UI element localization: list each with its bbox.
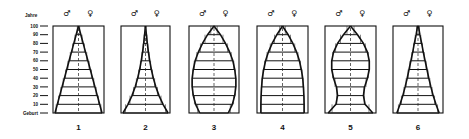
pyramid-panel-1: ♂♀1 [53, 9, 104, 132]
pyramid-panel-2: ♂♀2 [121, 9, 170, 132]
female-symbol: ♀ [291, 9, 297, 18]
panel-number: 6 [416, 123, 421, 132]
population-pyramid-figure: Jahre100908070605040302010Geburt ♂♀1♂♀2♂… [0, 0, 469, 139]
y-tick-label: 10 [33, 102, 39, 107]
y-tick-label: Geburt [23, 111, 39, 116]
y-tick-label: 30 [33, 85, 39, 90]
pyramid-panel-5: ♂♀5 [325, 9, 376, 132]
y-tick-label: 100 [30, 24, 38, 29]
y-tick-label: 80 [33, 41, 39, 46]
y-tick-label: 20 [33, 93, 39, 98]
male-symbol: ♂ [131, 9, 138, 18]
y-tick-label: 40 [33, 76, 39, 81]
male-symbol: ♂ [335, 9, 342, 18]
male-symbol: ♂ [267, 9, 274, 18]
y-tick-label: 70 [33, 50, 39, 55]
male-symbol: ♂ [199, 9, 206, 18]
panel-number: 3 [212, 123, 217, 132]
female-symbol: ♀ [426, 9, 432, 18]
female-symbol: ♀ [359, 9, 365, 18]
female-symbol: ♀ [154, 9, 160, 18]
male-symbol: ♂ [403, 9, 410, 18]
female-symbol: ♀ [87, 9, 93, 18]
pyramid-panel-6: ♂♀6 [393, 9, 443, 132]
panel-number: 2 [143, 123, 148, 132]
pyramid-panel-3: ♂♀3 [189, 9, 239, 132]
y-axis-label: Jahre [25, 13, 38, 18]
pyramid-panels: ♂♀1♂♀2♂♀3♂♀4♂♀5♂♀6 [53, 9, 443, 132]
panel-number: 1 [76, 123, 81, 132]
panel-number: 5 [348, 123, 353, 132]
male-symbol: ♂ [63, 9, 70, 18]
y-tick-label: 60 [33, 58, 39, 63]
y-tick-label: 90 [33, 32, 39, 37]
y-tick-label: 50 [33, 67, 39, 72]
pyramid-panel-4: ♂♀4 [257, 9, 308, 132]
age-axis: Jahre100908070605040302010Geburt [23, 13, 48, 116]
panel-number: 4 [280, 123, 285, 132]
female-symbol: ♀ [222, 9, 228, 18]
